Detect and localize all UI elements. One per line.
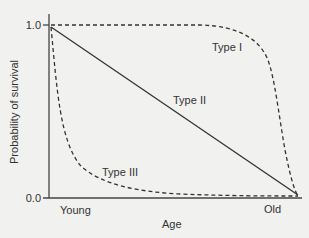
y-tick-label-top: 1.0 (26, 19, 41, 31)
y-axis-label: Probability of survival (8, 60, 20, 164)
label-type-ii: Type II (173, 94, 206, 106)
x-tick-label-right: Old (264, 203, 281, 215)
survivorship-chart: 1.0 0.0 Young Old Age Probability of sur… (0, 0, 309, 238)
y-tick-label-bottom: 0.0 (26, 192, 41, 204)
x-tick-label-left: Young (60, 204, 91, 216)
label-type-iii: Type III (102, 166, 138, 178)
label-type-i: Type I (212, 41, 242, 53)
series-type-ii (51, 27, 298, 195)
x-axis-label: Age (162, 218, 182, 230)
